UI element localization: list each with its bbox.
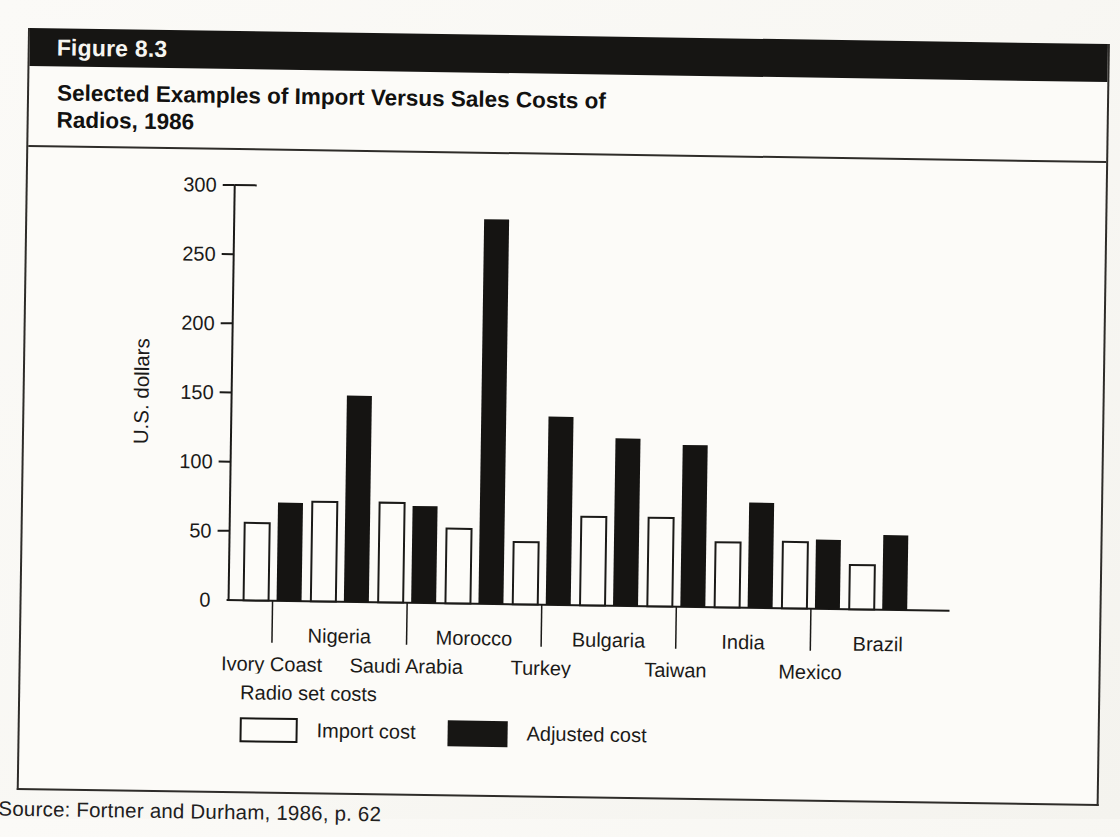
legend-import-swatch: [239, 718, 297, 744]
x-category-label-bulgaria: Bulgaria: [572, 628, 647, 651]
bar-turkey-adjusted: [546, 416, 574, 604]
x-group-tick: [541, 605, 542, 647]
bar-nigeria-adjusted: [344, 395, 372, 601]
x-category-label-turkey: Turkey: [510, 656, 571, 679]
y-tick-label: 300: [183, 173, 217, 195]
x-group-tick: [272, 601, 273, 643]
x-category-label-brazil: Brazil: [853, 633, 903, 656]
x-group-tick: [407, 603, 408, 645]
legend-import-label: Import cost: [316, 720, 415, 744]
legend-adjusted-label: Adjusted cost: [526, 723, 646, 748]
legend-adjusted-swatch: [447, 720, 507, 747]
legend-heading: Radio set costs: [240, 681, 1098, 717]
bar-bulgaria-adjusted: [613, 438, 640, 606]
x-category-label-taiwan: Taiwan: [644, 658, 707, 681]
x-group-tick: [810, 609, 811, 651]
y-tick-label: 150: [180, 381, 214, 403]
bar-mexico-import: [782, 542, 808, 609]
chart-legend: Radio set costs Import cost Adjusted cos…: [239, 681, 1098, 756]
bar-taiwan-import: [647, 518, 673, 607]
x-category-label-india: India: [721, 631, 766, 654]
bar-morocco-import: [445, 528, 471, 603]
chart-svg: 050100150200250300U.S. dollarsIvory Coas…: [21, 147, 1107, 686]
scanned-page: Figure 8.3 Selected Examples of Import V…: [0, 0, 1120, 835]
y-tick-label: 250: [182, 242, 216, 264]
x-category-label-mexico: Mexico: [778, 660, 842, 683]
bar-india-adjusted: [748, 502, 775, 607]
legend-row: Import cost Adjusted cost: [239, 717, 1097, 756]
bar-bulgaria-import: [580, 517, 606, 606]
bar-brazil-import: [849, 565, 875, 610]
bar-india-import: [715, 542, 741, 607]
bar-brazil-adjusted: [882, 535, 908, 610]
bar-nigeria-import: [311, 502, 337, 602]
bar-mexico-adjusted: [815, 539, 841, 609]
bar-saudi-arabia-adjusted: [411, 506, 437, 603]
x-category-label-saudi-arabia: Saudi Arabia: [349, 654, 464, 678]
y-tick-label: 50: [189, 519, 212, 541]
x-category-label-nigeria: Nigeria: [308, 624, 373, 647]
bar-turkey-import: [513, 542, 539, 605]
x-group-tick: [676, 607, 677, 649]
y-tick-label: 0: [199, 588, 210, 610]
figure-label: Figure 8.3: [57, 34, 168, 62]
bar-chart: 050100150200250300U.S. dollarsIvory Coas…: [21, 147, 1107, 686]
bar-ivory-coast-import: [244, 523, 270, 601]
x-category-label-ivory-coast: Ivory Coast: [221, 652, 323, 676]
figure-frame: Figure 8.3 Selected Examples of Import V…: [17, 28, 1110, 806]
bar-saudi-arabia-import: [378, 503, 404, 603]
bar-morocco-adjusted: [478, 219, 509, 604]
y-axis-title: U.S. dollars: [129, 338, 154, 444]
x-category-label-morocco: Morocco: [435, 626, 512, 649]
bar-ivory-coast-adjusted: [277, 502, 303, 601]
y-tick-label: 200: [181, 311, 215, 333]
source-note: Source: Fortner and Durham, 1986, p. 62: [0, 797, 381, 827]
y-tick-label: 100: [179, 450, 213, 472]
bar-taiwan-adjusted: [680, 445, 707, 607]
